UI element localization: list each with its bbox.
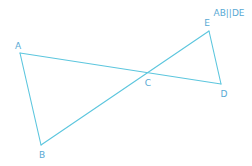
vertex-label-d: D	[221, 89, 228, 99]
segment-ed	[209, 31, 221, 84]
vertex-label-a: A	[15, 41, 21, 51]
vertex-label-c: C	[145, 78, 151, 88]
segment-be	[41, 31, 209, 145]
vertex-label-b: B	[39, 150, 45, 160]
parallel-note: AB||DE	[213, 8, 244, 18]
vertex-label-e: E	[204, 18, 210, 28]
segment-ab	[20, 53, 41, 145]
segment-ad	[20, 53, 221, 84]
geometry-diagram	[0, 0, 252, 166]
